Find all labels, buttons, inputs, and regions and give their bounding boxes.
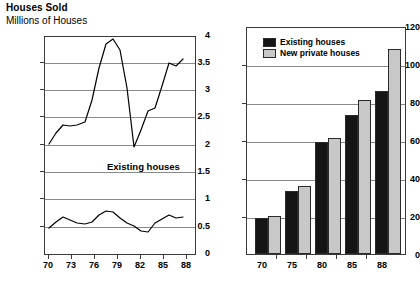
line-chart-panel: 4 3.5 3 2.5 2 1.5 1 0.5 0: [0, 0, 210, 285]
right-xtickmark-4: [366, 255, 367, 259]
line-plot-area: Existing houses New private houses: [44, 36, 196, 255]
left-xtick-70: 70: [38, 261, 58, 270]
bar-existing-88[interactable]: [375, 91, 388, 254]
bar-existing-80[interactable]: [315, 142, 328, 254]
left-xtick-88: 88: [176, 261, 196, 270]
bar-chart-legend: Existing houses New private houses: [261, 35, 363, 61]
legend-swatch-existing-icon: [263, 38, 276, 47]
bar-existing-70[interactable]: [255, 218, 268, 254]
legend-label-new-private-houses: New private houses: [280, 49, 360, 58]
bar-plot-area: Existing houses New private houses: [246, 27, 406, 255]
left-xtickmark-70: [48, 255, 49, 259]
bar-new-private-80[interactable]: [328, 138, 341, 254]
right-xtick-88: 88: [371, 261, 393, 270]
bar-existing-85[interactable]: [345, 115, 358, 254]
bar-group-85: [345, 100, 373, 254]
series-new-private-houses-line: [49, 211, 183, 232]
right-xtick-80: 80: [311, 261, 333, 270]
left-xtick-73: 73: [61, 261, 81, 270]
right-xtickmark-1: [276, 255, 277, 259]
left-xtickmark-85: [163, 255, 164, 259]
left-xtick-79: 79: [107, 261, 127, 270]
left-xtick-85: 85: [153, 261, 173, 270]
line-series-svg: [45, 37, 196, 255]
bar-new-private-75[interactable]: [298, 186, 311, 254]
legend-item-existing-houses: Existing houses: [263, 37, 360, 47]
left-xtickmark-79: [117, 255, 118, 259]
bar-group-80: [315, 138, 343, 254]
left-xtick-82: 82: [130, 261, 150, 270]
legend-swatch-new-private-icon: [263, 49, 276, 58]
figure-canvas: Houses Sold Millions of Houses 4 3.5 3 2…: [0, 0, 420, 285]
left-xtickmark-88: [186, 255, 187, 259]
bar-existing-75[interactable]: [285, 191, 298, 254]
left-xtickmark-73: [71, 255, 72, 259]
bar-group-88: [375, 49, 403, 254]
bar-new-private-70[interactable]: [268, 216, 281, 254]
bar-new-private-85[interactable]: [358, 100, 371, 254]
right-xtick-85: 85: [341, 261, 363, 270]
bar-new-private-88[interactable]: [388, 49, 401, 254]
left-xtickmark-82: [140, 255, 141, 259]
left-xtickmark-76: [94, 255, 95, 259]
right-xtickmark-2: [306, 255, 307, 259]
right-xtick-75: 75: [281, 261, 303, 270]
series-existing-houses-line: [49, 39, 183, 147]
right-xtickmark-3: [336, 255, 337, 259]
bar-group-70: [255, 216, 283, 254]
right-xtick-70: 70: [251, 261, 273, 270]
legend-label-existing-houses: Existing houses: [280, 38, 345, 47]
annotation-existing-houses: Existing houses: [107, 162, 180, 172]
legend-item-new-private-houses: New private houses: [263, 48, 360, 58]
bar-chart-panel: 120 100 80 60 40 20 0 Existing houses: [210, 0, 420, 285]
bar-group-75: [285, 186, 313, 254]
left-xtick-76: 76: [84, 261, 104, 270]
